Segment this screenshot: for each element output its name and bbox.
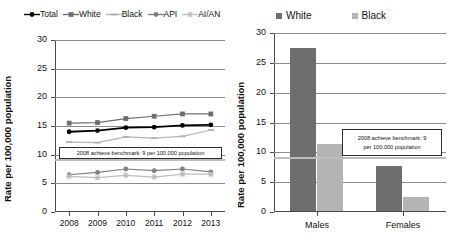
chart-figure: TotalWhiteBlackAPIAI/AN Rate per 100,000… — [0, 0, 455, 238]
x-tick-mark — [403, 212, 404, 216]
y-tick-mark — [270, 33, 274, 34]
y-tick-label: 20 — [244, 87, 266, 97]
legend-label: White — [286, 10, 312, 21]
bar-chart-legend: WhiteBlack — [276, 10, 386, 21]
y-tick-mark — [270, 152, 274, 153]
y-tick-mark — [270, 63, 274, 64]
y-tick-label: 15 — [244, 117, 266, 127]
x-tick-mark — [317, 212, 318, 216]
y-tick-mark — [270, 212, 274, 213]
x-tick-label: 2009 — [82, 218, 114, 228]
bar-males-black — [317, 144, 343, 211]
y-tick-label: 10 — [25, 149, 47, 159]
right-x-axis — [274, 211, 446, 212]
x-group-label: Females — [363, 220, 443, 230]
benchmark-annotation-box: 2008 achieve benchmark: 9per 100,000 pop… — [342, 129, 442, 156]
bar-plot-area: 051015202530MalesFemales2008 achieve ben… — [274, 33, 446, 212]
legend-item-api: API — [148, 9, 178, 19]
y-tick-label: 10 — [244, 146, 266, 156]
y-tick-label: 0 — [25, 206, 47, 216]
line-series-group — [55, 40, 225, 212]
y-tick-mark — [270, 182, 274, 183]
y-tick-label: 25 — [25, 63, 47, 73]
legend-marker-white-icon — [63, 10, 79, 19]
left-y-axis-title: Rate per 100,000 population — [2, 52, 13, 202]
legend-label: Black — [122, 9, 143, 19]
x-tick-mark — [98, 212, 99, 216]
legend-swatch-black-icon — [352, 13, 358, 19]
x-tick-mark — [211, 212, 212, 216]
x-tick-label: 2010 — [110, 218, 142, 228]
legend-item-white: White — [63, 9, 101, 19]
legend-item-white: White — [276, 10, 312, 21]
y-tick-mark — [51, 212, 55, 213]
line-ai-an — [69, 174, 211, 177]
bar-females-black — [403, 197, 429, 211]
bar-females-white — [376, 166, 402, 211]
x-tick-mark — [154, 212, 155, 216]
line-white — [69, 114, 211, 123]
x-tick-label: 2013 — [195, 218, 227, 228]
legend-label: Black — [362, 10, 386, 21]
y-tick-label: 5 — [244, 176, 266, 186]
legend-label: Total — [40, 9, 58, 19]
y-tick-mark — [270, 93, 274, 94]
line-black — [69, 130, 211, 143]
legend-item-ai-an: AI/AN — [182, 9, 220, 19]
legend-label: AI/AN — [198, 9, 220, 19]
x-tick-label: 2008 — [53, 218, 85, 228]
gridline — [274, 33, 446, 34]
y-tick-mark — [270, 123, 274, 124]
bar-chart-panel: WhiteBlack Rate per 100,000 population 0… — [232, 0, 455, 238]
y-tick-label: 25 — [244, 57, 266, 67]
legend-label: API — [164, 9, 178, 19]
x-tick-mark — [126, 212, 127, 216]
benchmark-reference-line — [274, 157, 446, 159]
legend-swatch-white-icon — [276, 13, 282, 19]
x-tick-label: 2012 — [167, 218, 199, 228]
benchmark-line-1: 2008 achieve benchmark: 9 — [358, 134, 427, 142]
x-tick-label: 2011 — [138, 218, 170, 228]
y-tick-label: 5 — [25, 177, 47, 187]
line-chart-legend: TotalWhiteBlackAPIAI/AN — [24, 9, 220, 19]
benchmark-annotation-box: 2008 achieve benchmark: 9 per 100,000 po… — [59, 147, 222, 159]
legend-marker-black-icon — [106, 10, 122, 19]
benchmark-line-2: per 100,000 population — [363, 143, 420, 151]
line-plot-area: 0510152025302008200920102011201220132008… — [55, 40, 225, 212]
legend-marker-ai-an-icon — [182, 10, 198, 19]
x-tick-mark — [183, 212, 184, 216]
y-tick-label: 30 — [244, 27, 266, 37]
y-tick-label: 20 — [25, 91, 47, 101]
legend-item-total: Total — [24, 9, 58, 19]
legend-label: White — [79, 9, 101, 19]
y-tick-label: 0 — [244, 206, 266, 216]
legend-marker-total-icon — [24, 10, 40, 19]
bar-males-white — [290, 48, 316, 211]
x-tick-mark — [69, 212, 70, 216]
line-chart-panel: TotalWhiteBlackAPIAI/AN Rate per 100,000… — [0, 0, 232, 238]
line-total — [69, 125, 211, 132]
legend-marker-api-icon — [148, 10, 164, 19]
legend-item-black: Black — [106, 9, 143, 19]
legend-item-black: Black — [352, 10, 386, 21]
y-tick-label: 15 — [25, 120, 47, 130]
x-group-label: Males — [277, 220, 357, 230]
y-tick-label: 30 — [25, 34, 47, 44]
